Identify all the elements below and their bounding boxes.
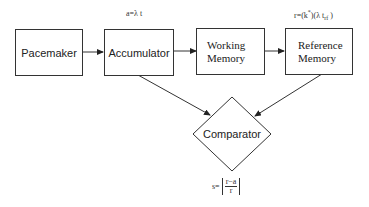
- reference-formula-mid: )(λ t: [311, 11, 324, 20]
- reference-memory-node: Reference Memory: [285, 28, 353, 75]
- working-memory-label-line1: Working: [207, 39, 245, 52]
- accumulator-label: Accumulator: [108, 47, 169, 59]
- comparator-label: Comparator: [193, 128, 271, 140]
- edge-accumulator-comparator: [138, 75, 210, 115]
- comparator-formula-denominator: r: [230, 187, 233, 195]
- pacemaker-label: Pacemaker: [21, 47, 77, 59]
- accumulator-formula: a=λ t: [126, 9, 142, 18]
- comparator-formula: s= r−a r: [212, 178, 240, 195]
- comparator-formula-prefix: s=: [212, 182, 220, 191]
- reference-formula-main: r=(k: [294, 11, 308, 20]
- edge-reference-comparator: [255, 74, 322, 116]
- pacemaker-node: Pacemaker: [15, 29, 83, 76]
- comparator-formula-fraction: r−a r: [222, 178, 241, 195]
- working-memory-label-line2: Memory: [207, 52, 245, 65]
- reference-memory-label-line2: Memory: [298, 52, 336, 65]
- reference-formula-end: ): [328, 11, 333, 20]
- accumulator-node: Accumulator: [104, 29, 174, 76]
- reference-formula: r=(k*)(λ trf ): [294, 9, 333, 21]
- reference-memory-label-line1: Reference: [298, 39, 343, 52]
- working-memory-node: Working Memory: [196, 28, 265, 75]
